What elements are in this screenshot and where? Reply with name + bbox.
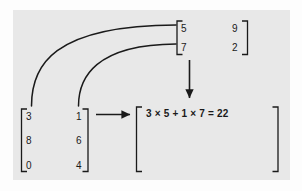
left-matrix-cell-1-1: 6	[76, 136, 82, 146]
result-matrix-cell-expression: 3 × 5 + 1 × 7 = 22	[146, 108, 229, 119]
diagram-vector-layer	[0, 0, 302, 191]
left-matrix-cell-0-0: 3	[26, 112, 32, 122]
left-matrix-cell-1-0: 8	[26, 136, 32, 146]
link-curve-row-1	[32, 25, 177, 106]
left-matrix-cell-0-1: 1	[76, 112, 82, 122]
top-matrix-cell-1-0: 7	[181, 43, 187, 53]
top-matrix-cell-1-1: 2	[232, 43, 238, 53]
left-matrix-cell-2-0: 0	[26, 161, 32, 171]
result-matrix-bracket-left	[137, 107, 143, 172]
result-matrix-bracket-right	[273, 107, 279, 172]
matrix-multiplication-figure: 5 9 7 2 3 1 8 6 0 4 3 × 5 + 1 × 7 = 22	[0, 0, 302, 191]
top-matrix-cell-0-0: 5	[181, 24, 187, 34]
top-matrix-cell-0-1: 9	[232, 24, 238, 34]
left-matrix-cell-2-1: 4	[76, 161, 82, 171]
left-matrix-bracket-right	[83, 109, 89, 172]
top-matrix-bracket-right	[242, 21, 248, 55]
link-curve-row-2	[79, 44, 177, 106]
